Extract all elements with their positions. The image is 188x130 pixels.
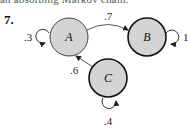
markov-chain-diagram: .7 .6 .3 1 .4 A B C [0, 0, 188, 130]
edge-label-a-to-a: .3 [24, 31, 33, 43]
self-loop-c: .4 [102, 98, 116, 127]
node-label-b: B [143, 30, 151, 44]
edge-label-b-to-b: 1 [183, 31, 188, 43]
edge-label-a-to-b: .7 [104, 10, 113, 22]
edge-label-c-to-c: .4 [104, 115, 113, 127]
self-loop-a: .3 [24, 29, 49, 43]
node-label-a: A [64, 30, 73, 44]
node-b: B [128, 18, 166, 56]
node-label-c: C [104, 71, 113, 85]
node-c: C [89, 59, 127, 97]
edge-label-c-to-a: .6 [70, 64, 79, 76]
self-loop-b: 1 [166, 30, 188, 44]
node-a: A [50, 18, 88, 56]
edge-a-to-b: .7 [87, 10, 128, 30]
